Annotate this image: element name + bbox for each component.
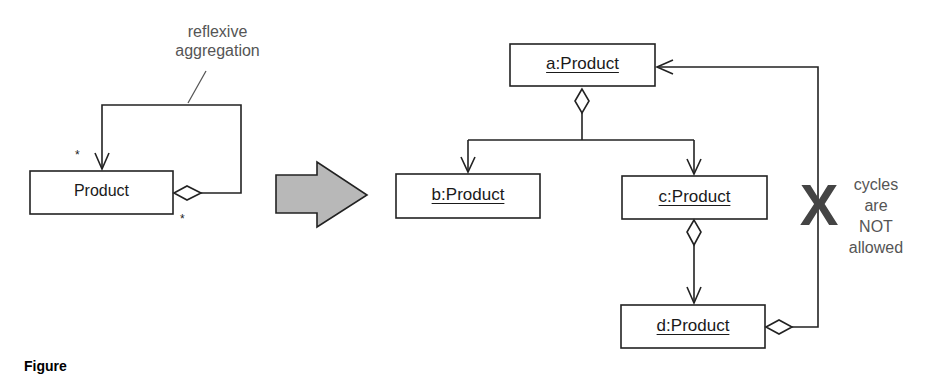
reflexive-aggregation-note: reflexive aggregation	[155, 22, 280, 60]
note-line-3: NOT	[840, 216, 912, 237]
object-name-c: c:Product	[659, 187, 731, 206]
figure-caption: Figure	[24, 358, 67, 374]
note-line-2: are	[840, 195, 912, 216]
aggregation-diamond-icon	[575, 89, 589, 113]
object-label-a: a:Product	[510, 54, 655, 74]
object-label-d: d:Product	[621, 316, 765, 336]
aggregation-a-to-b-c	[461, 89, 701, 174]
object-name-b: b:Product	[432, 185, 505, 204]
object-name-d: d:Product	[657, 316, 730, 335]
note-line-1: reflexive	[155, 22, 280, 41]
object-name-a: a:Product	[546, 54, 619, 73]
aggregation-diamond-icon	[174, 186, 201, 200]
prohibition-x-icon: X	[796, 170, 842, 240]
aggregation-diamond-icon	[766, 320, 792, 334]
aggregation-c-to-d	[687, 220, 701, 303]
multiplicity-target: *	[75, 148, 80, 162]
cycles-not-allowed-note: cycles are NOT allowed	[840, 174, 912, 258]
annotation-leader-line	[188, 71, 206, 103]
multiplicity-source: *	[180, 212, 185, 226]
note-line-1: cycles	[840, 174, 912, 195]
note-line-4: allowed	[840, 237, 912, 258]
product-class-label: Product	[30, 182, 173, 200]
object-label-c: c:Product	[622, 187, 767, 207]
transform-arrow-icon	[276, 162, 367, 227]
note-line-2: aggregation	[155, 41, 280, 60]
aggregation-diamond-icon	[687, 220, 701, 245]
object-label-b: b:Product	[396, 185, 540, 205]
